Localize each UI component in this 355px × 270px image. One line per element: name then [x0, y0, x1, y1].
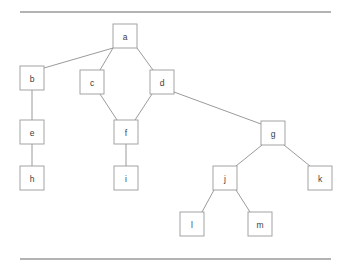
- edge-d-g: [174, 92, 261, 124]
- node-label-a: a: [123, 32, 128, 42]
- node-k[interactable]: k: [308, 166, 332, 190]
- node-label-d: d: [160, 78, 165, 88]
- node-label-b: b: [30, 74, 35, 84]
- edge-g-k: [284, 145, 310, 166]
- edge-d-f: [135, 94, 152, 120]
- node-layer: abcdefghijklm: [20, 24, 332, 236]
- node-a[interactable]: a: [113, 24, 137, 48]
- edge-c-f: [100, 94, 117, 120]
- node-label-i: i: [125, 174, 127, 184]
- edge-j-l: [202, 190, 214, 212]
- node-label-e: e: [30, 128, 35, 138]
- node-label-h: h: [30, 174, 35, 184]
- node-label-j: j: [223, 174, 226, 184]
- node-label-l: l: [191, 220, 193, 230]
- node-label-m: m: [256, 220, 263, 230]
- node-label-g: g: [271, 129, 276, 139]
- node-l[interactable]: l: [180, 212, 204, 236]
- edge-j-m: [236, 190, 250, 212]
- node-e[interactable]: e: [20, 120, 44, 144]
- node-b[interactable]: b: [20, 66, 44, 90]
- node-f[interactable]: f: [114, 120, 138, 144]
- graph-canvas: abcdefghijklm: [0, 0, 355, 270]
- node-d[interactable]: d: [150, 70, 174, 94]
- node-h[interactable]: h: [20, 166, 44, 190]
- node-m[interactable]: m: [248, 212, 272, 236]
- node-j[interactable]: j: [213, 166, 237, 190]
- node-g[interactable]: g: [261, 121, 285, 145]
- diagram-figure: abcdefghijklm: [0, 0, 355, 270]
- node-i[interactable]: i: [114, 166, 138, 190]
- edge-a-d: [137, 48, 153, 70]
- edge-g-j: [236, 145, 262, 166]
- node-c[interactable]: c: [80, 70, 104, 94]
